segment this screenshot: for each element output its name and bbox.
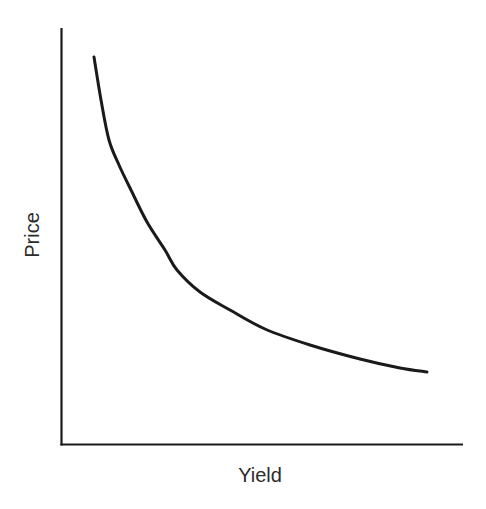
price-yield-chart-figure: Price Yield: [0, 0, 486, 509]
x-axis-label-yield: Yield: [200, 462, 320, 488]
price-yield-curve-line: [94, 57, 427, 372]
chart-plot-area: [0, 0, 486, 509]
y-axis-label-price: Price: [19, 175, 45, 295]
